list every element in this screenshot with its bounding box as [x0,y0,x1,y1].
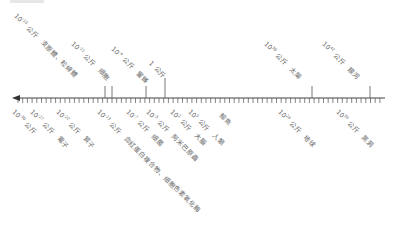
arrow-left-icon [12,95,20,101]
